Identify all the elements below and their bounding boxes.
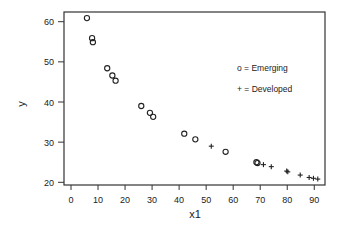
x-tick-label: 30 (147, 195, 157, 205)
emerging-point (223, 149, 228, 154)
developed-point (311, 176, 316, 181)
plot-svg: 0102030405060708090 2030405060 x1 y o = … (0, 0, 345, 230)
y-axis-label: y (15, 101, 27, 107)
developed-point (284, 169, 289, 174)
scatter-chart: 0102030405060708090 2030405060 x1 y o = … (0, 0, 345, 230)
x-axis-label: x1 (189, 208, 201, 220)
developed-point (298, 173, 303, 178)
developed-point (285, 169, 290, 174)
x-tick-label: 10 (93, 195, 103, 205)
y-axis: 2030405060 (44, 17, 64, 188)
developed-point (315, 177, 320, 182)
emerging-point (139, 103, 144, 108)
plot-frame (64, 12, 325, 185)
x-tick-label: 90 (309, 195, 319, 205)
developed-point (261, 162, 266, 167)
x-tick-label: 0 (68, 195, 73, 205)
x-tick-label: 70 (255, 195, 265, 205)
legend-entry-developed: + = Developed (237, 84, 293, 94)
legend: o = Emerging + = Developed (237, 63, 293, 94)
emerging-point (151, 114, 156, 119)
emerging-point (84, 15, 89, 20)
y-tick-label: 20 (44, 178, 54, 188)
emerging-point (193, 137, 198, 142)
developed-point (209, 144, 214, 149)
developed-point (307, 175, 312, 180)
x-axis: 0102030405060708090 (68, 185, 319, 205)
legend-entry-emerging: o = Emerging (237, 63, 288, 73)
plot-border (64, 12, 325, 185)
emerging-point (113, 78, 118, 83)
y-tick-label: 60 (44, 17, 54, 27)
x-tick-label: 50 (201, 195, 211, 205)
y-tick-label: 30 (44, 138, 54, 148)
emerging-point (182, 131, 187, 136)
x-tick-label: 40 (174, 195, 184, 205)
y-tick-label: 40 (44, 98, 54, 108)
emerging-point (105, 66, 110, 71)
x-tick-label: 80 (282, 195, 292, 205)
x-tick-label: 20 (120, 195, 130, 205)
emerging-point (110, 73, 115, 78)
developed-point (269, 164, 274, 169)
x-tick-label: 60 (228, 195, 238, 205)
data-points (84, 15, 320, 181)
y-tick-label: 50 (44, 57, 54, 67)
